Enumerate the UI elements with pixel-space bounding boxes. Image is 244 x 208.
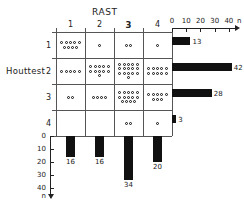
matrix-cell-r3-c2 [85, 84, 114, 110]
column-total-bar-2 [95, 136, 104, 157]
column-header-1: 1 [56, 20, 85, 29]
dot-cluster [117, 121, 140, 125]
matrix-cell-r1-c1 [56, 32, 85, 58]
count-dot [98, 65, 101, 68]
count-dot [123, 96, 126, 99]
contingency-matrix: 12341234 [56, 32, 172, 136]
column-header-3: 3 [114, 20, 143, 30]
count-dot [65, 41, 68, 44]
count-dot [118, 72, 121, 75]
dot-cluster [117, 43, 140, 47]
bottom-axis-unit-label: n [24, 192, 46, 200]
count-dot [89, 70, 92, 73]
count-dot [152, 98, 155, 101]
count-dot [71, 96, 74, 99]
count-dot [156, 72, 159, 75]
count-dot [147, 67, 150, 70]
dot-cluster [59, 69, 82, 73]
bottom-axis-line [50, 136, 51, 198]
count-dot [136, 63, 139, 66]
count-dot [131, 96, 134, 99]
count-dot [96, 96, 99, 99]
count-dot [63, 46, 66, 49]
bottom-axis-tick-label: 10 [24, 145, 46, 153]
row-total-bar-4 [172, 115, 176, 123]
count-dot [94, 70, 97, 73]
count-dot [118, 91, 121, 94]
count-dot [131, 63, 134, 66]
column-total-bar-4 [153, 136, 162, 162]
count-dot [127, 76, 130, 79]
count-dot [127, 96, 130, 99]
count-dot [118, 67, 121, 70]
row-header-2: 2 [44, 67, 53, 76]
count-dot [160, 67, 163, 70]
count-dot [129, 100, 132, 103]
row-header-4: 4 [44, 119, 53, 128]
column-total-value-1: 16 [62, 158, 80, 166]
bottom-axis-tick [50, 162, 54, 163]
bottom-axis-tick-label: 0 [24, 132, 46, 140]
count-dot [69, 70, 72, 73]
top-axis-unit-label: n [237, 17, 241, 25]
count-dot [152, 93, 155, 96]
dot-cluster [146, 121, 169, 125]
count-dot [89, 65, 92, 68]
count-dot [123, 91, 126, 94]
count-dot [65, 70, 68, 73]
count-dot [160, 93, 163, 96]
row-total-value-2: 42 [234, 64, 243, 72]
count-dot [165, 67, 168, 70]
bottom-axis-tick [50, 136, 54, 137]
column-totals-bar-chart: n 01020304016163420 [24, 132, 184, 208]
dot-cluster [59, 95, 82, 99]
houttest-axis-title: Houttest [6, 66, 45, 76]
count-dot [127, 72, 130, 75]
dot-cluster [117, 91, 140, 103]
count-dot [67, 96, 70, 99]
dot-cluster [59, 41, 82, 49]
bottom-axis-tick [50, 188, 54, 189]
top-axis-tick-label: 30 [208, 17, 222, 25]
count-dot [165, 93, 168, 96]
count-dot [156, 93, 159, 96]
count-dot [78, 70, 81, 73]
count-dot [131, 91, 134, 94]
row-total-value-3: 28 [214, 90, 223, 98]
count-dot [125, 122, 128, 125]
top-axis-tick-label: 10 [179, 17, 193, 25]
dot-cluster [146, 43, 169, 47]
count-dot [98, 44, 101, 47]
count-dot [156, 44, 159, 47]
count-dot [98, 70, 101, 73]
row-total-bar-3 [172, 89, 212, 97]
count-dot [152, 72, 155, 75]
count-dot [125, 44, 128, 47]
column-total-value-4: 20 [149, 163, 167, 171]
column-total-bar-3 [124, 136, 133, 180]
count-dot [69, 41, 72, 44]
count-dot [156, 122, 159, 125]
count-dot [156, 98, 159, 101]
bottom-axis-tick-label: 20 [24, 158, 46, 166]
matrix-cell-r2-c1 [56, 58, 85, 84]
count-dot [133, 100, 136, 103]
matrix-cell-r1-c3 [114, 32, 143, 58]
column-total-value-3: 34 [120, 181, 138, 189]
dot-cluster [146, 93, 169, 101]
count-dot [165, 72, 168, 75]
count-dot [127, 63, 130, 66]
dot-cluster [88, 65, 111, 77]
row-total-bar-2 [172, 63, 232, 71]
top-axis-tick [229, 28, 230, 32]
column-total-bar-1 [66, 136, 75, 157]
top-axis-tick [186, 28, 187, 32]
count-dot [156, 67, 159, 70]
count-dot [131, 67, 134, 70]
bottom-axis-tick [50, 175, 54, 176]
count-dot [102, 70, 105, 73]
count-dot [160, 98, 163, 101]
count-dot [136, 67, 139, 70]
count-dot [94, 65, 97, 68]
count-dot [131, 72, 134, 75]
